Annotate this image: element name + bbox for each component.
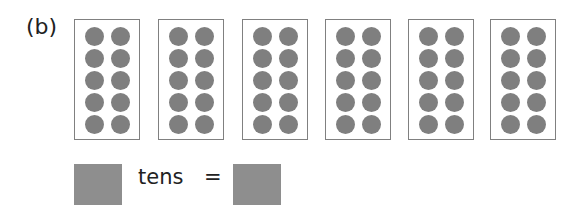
counter-dot <box>362 115 381 134</box>
counter-dot <box>445 49 464 68</box>
counter-dot <box>419 115 438 134</box>
counter-dot <box>362 93 381 112</box>
counter-dot <box>362 49 381 68</box>
counter-dot <box>501 115 520 134</box>
counter-dot <box>279 115 298 134</box>
counter-dot <box>253 49 272 68</box>
counter-dot <box>195 115 214 134</box>
counter-dot <box>111 71 130 90</box>
counter-dot <box>501 49 520 68</box>
counter-dot <box>501 93 520 112</box>
counter-dot <box>85 49 104 68</box>
counter-dot <box>336 49 355 68</box>
counter-dot <box>279 71 298 90</box>
equals-sign: = <box>204 165 222 189</box>
ten-frame-2 <box>158 19 224 140</box>
counter-dot <box>169 49 188 68</box>
counter-dot <box>527 93 546 112</box>
counter-dot <box>279 49 298 68</box>
counter-dot <box>336 115 355 134</box>
counter-dot <box>445 93 464 112</box>
counter-dot <box>419 27 438 46</box>
counter-dot <box>501 27 520 46</box>
counter-dot <box>501 71 520 90</box>
counter-dot <box>362 71 381 90</box>
counter-dot <box>336 71 355 90</box>
counter-dot <box>445 71 464 90</box>
counter-dot <box>111 93 130 112</box>
counter-dot <box>111 49 130 68</box>
counter-dot <box>253 93 272 112</box>
answer-box-tens[interactable] <box>74 164 122 205</box>
counter-dot <box>111 115 130 134</box>
counter-dot <box>362 27 381 46</box>
counter-dot <box>169 27 188 46</box>
counter-dot <box>253 27 272 46</box>
counter-dot <box>195 49 214 68</box>
counter-dot <box>195 93 214 112</box>
counter-dot <box>527 27 546 46</box>
counter-dot <box>336 93 355 112</box>
counter-dot <box>527 71 546 90</box>
counter-dot <box>85 27 104 46</box>
part-label: (b) <box>26 14 57 39</box>
counter-dot <box>279 93 298 112</box>
counter-dot <box>253 71 272 90</box>
counter-dot <box>336 27 355 46</box>
counter-dot <box>279 27 298 46</box>
counter-dot <box>445 115 464 134</box>
counter-dot <box>85 71 104 90</box>
counter-dot <box>419 71 438 90</box>
counter-dot <box>419 49 438 68</box>
ten-frame-4 <box>325 19 391 140</box>
answer-box-total[interactable] <box>233 164 281 205</box>
ten-frame-1 <box>74 19 140 140</box>
ten-frame-3 <box>242 19 308 140</box>
ten-frame-5 <box>408 19 474 140</box>
counter-dot <box>527 49 546 68</box>
counter-dot <box>445 27 464 46</box>
counter-dot <box>527 115 546 134</box>
counter-dot <box>85 115 104 134</box>
counter-dot <box>169 71 188 90</box>
counter-dot <box>253 115 272 134</box>
counter-dot <box>419 93 438 112</box>
counter-dot <box>195 71 214 90</box>
tens-word: tens <box>138 165 183 189</box>
counter-dot <box>169 115 188 134</box>
counter-dot <box>111 27 130 46</box>
counter-dot <box>195 27 214 46</box>
counter-dot <box>169 93 188 112</box>
ten-frame-6 <box>490 19 556 140</box>
counter-dot <box>85 93 104 112</box>
